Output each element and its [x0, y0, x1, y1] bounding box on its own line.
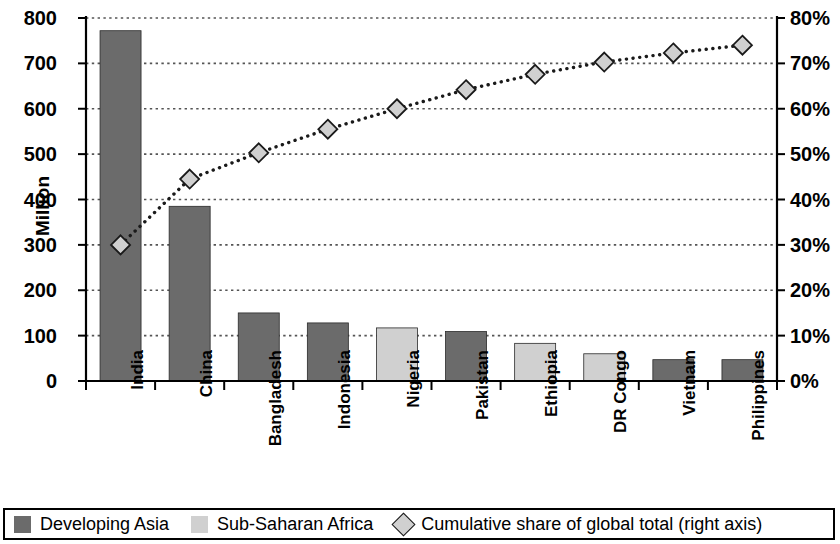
- legend-label: Cumulative share of global total (right …: [421, 515, 762, 533]
- legend-square-icon: [14, 516, 31, 533]
- chart-legend: Developing AsiaSub-Saharan AfricaCumulat…: [3, 508, 835, 540]
- cumulative-share-line: [121, 45, 743, 245]
- cumulative-share-marker: [249, 143, 268, 162]
- x-axis-category-label: China: [198, 350, 215, 490]
- x-axis-category-label: Vietnam: [681, 350, 698, 490]
- cumulative-share-marker: [387, 99, 406, 118]
- cumulative-share-marker: [526, 65, 545, 84]
- x-axis-category-label: Philippines: [750, 350, 767, 490]
- bar: [100, 31, 141, 381]
- x-axis-category-label: Ethiopia: [543, 350, 560, 490]
- legend-square-icon: [191, 516, 208, 533]
- legend-diamond-icon: [392, 512, 416, 536]
- legend-item[interactable]: Sub-Saharan Africa: [191, 515, 373, 533]
- x-axis-category-label: DR Congo: [612, 350, 629, 490]
- cumulative-share-marker: [457, 80, 476, 99]
- cumulative-share-marker: [664, 43, 683, 62]
- chart-container: Million 0100200300400500600700800 0%10%2…: [0, 0, 840, 544]
- legend-label: Developing Asia: [40, 515, 169, 533]
- x-axis-category-label: Indonesia: [336, 350, 353, 490]
- legend-item[interactable]: Cumulative share of global total (right …: [395, 515, 762, 533]
- cumulative-share-marker: [733, 36, 752, 55]
- x-axis-category-label: India: [129, 350, 146, 490]
- cumulative-share-marker: [595, 53, 614, 72]
- legend-item[interactable]: Developing Asia: [14, 515, 169, 533]
- x-axis-category-label: Nigeria: [405, 350, 422, 490]
- x-axis-category-label: Pakistan: [474, 350, 491, 490]
- legend-label: Sub-Saharan Africa: [217, 515, 373, 533]
- cumulative-share-marker: [318, 120, 337, 139]
- x-axis-category-label: Bangladesh: [267, 350, 284, 490]
